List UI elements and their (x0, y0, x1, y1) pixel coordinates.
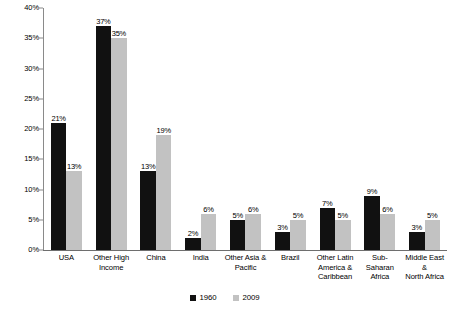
x-axis-labels: USAOther High IncomeChinaIndiaOther Asia… (44, 253, 447, 293)
bar-1960[interactable]: 3% (409, 232, 425, 250)
bar-2009[interactable]: 13% (66, 171, 82, 250)
bar-value-label: 5% (338, 211, 348, 220)
y-axis-tick-mark (39, 129, 43, 130)
bar-2009[interactable]: 6% (380, 214, 396, 250)
bar-1960[interactable]: 13% (140, 171, 156, 250)
y-axis-tick-mark (39, 189, 43, 190)
y-axis-tick-label: 35% (24, 34, 39, 42)
bar-value-label: 7% (322, 199, 332, 208)
bar-group: 2%6% (178, 8, 223, 250)
x-axis-category-label: Middle East & North Africa (396, 253, 449, 282)
bar-value-label: 3% (277, 223, 287, 232)
plot-area: 21%13%37%35%13%19%2%6%5%6%3%5%7%5%9%6%3%… (44, 8, 447, 250)
y-axis-tick-label: 25% (24, 95, 39, 103)
bar-group: 21%13% (44, 8, 89, 250)
bar-1960[interactable]: 7% (320, 208, 336, 250)
bar-value-label: 6% (203, 205, 213, 214)
y-axis-tick-mark (39, 8, 43, 9)
bar-value-label: 9% (367, 187, 377, 196)
bar-2009[interactable]: 5% (425, 220, 441, 250)
x-axis-line (43, 250, 447, 251)
bar-group: 13%19% (134, 8, 179, 250)
bar-2009[interactable]: 35% (111, 38, 127, 250)
bar-group: 37%35% (89, 8, 134, 250)
bar-2009[interactable]: 5% (335, 220, 351, 250)
bar-group: 7%5% (313, 8, 358, 250)
bar-value-label: 5% (427, 211, 437, 220)
bar-2009[interactable]: 5% (290, 220, 306, 250)
legend-item-2009[interactable]: 2009 (233, 293, 260, 302)
y-axis-tick-mark (39, 38, 43, 39)
legend-swatch-icon (233, 295, 239, 301)
y-axis-tick-mark (39, 68, 43, 69)
y-axis-tick-mark (39, 98, 43, 99)
bar-group: 9%6% (357, 8, 402, 250)
bar-1960[interactable]: 37% (96, 26, 112, 250)
legend-item-1960[interactable]: 1960 (190, 293, 217, 302)
bar-1960[interactable]: 9% (364, 196, 380, 250)
bar-2009[interactable]: 6% (245, 214, 261, 250)
bar-group: 5%6% (223, 8, 268, 250)
y-axis-tick-label: 15% (24, 155, 39, 163)
legend-label: 2009 (243, 293, 260, 302)
bar-value-label: 6% (248, 205, 258, 214)
y-axis-tick-mark (39, 250, 43, 251)
chart-legend: 19602009 (0, 293, 449, 302)
bar-value-label: 3% (412, 223, 422, 232)
y-axis-tick-label: 40% (24, 4, 39, 12)
bar-value-label: 21% (51, 114, 65, 123)
bar-value-label: 37% (96, 17, 110, 26)
bar-1960[interactable]: 21% (51, 123, 67, 250)
y-axis-tick-label: 10% (24, 186, 39, 194)
legend-swatch-icon (190, 295, 196, 301)
bar-1960[interactable]: 2% (185, 238, 201, 250)
bar-group: 3%5% (268, 8, 313, 250)
bar-value-label: 5% (293, 211, 303, 220)
bar-value-label: 13% (67, 162, 81, 171)
y-axis-tick-label: 5% (28, 216, 39, 224)
y-axis-tick-label: 20% (24, 125, 39, 133)
bar-value-label: 6% (382, 205, 392, 214)
y-axis-tick-label: 30% (24, 65, 39, 73)
bar-chart: 0%5%10%15%20%25%30%35%40% 21%13%37%35%13… (0, 0, 449, 315)
bar-1960[interactable]: 5% (230, 220, 246, 250)
y-axis-tick-mark (39, 159, 43, 160)
bar-group: 3%5% (402, 8, 447, 250)
bar-value-label: 35% (112, 29, 126, 38)
bar-value-label: 19% (156, 126, 170, 135)
bar-value-label: 13% (141, 162, 155, 171)
y-axis-tick-mark (39, 219, 43, 220)
bar-2009[interactable]: 19% (156, 135, 172, 250)
legend-label: 1960 (200, 293, 217, 302)
bar-1960[interactable]: 3% (275, 232, 291, 250)
bar-value-label: 2% (188, 229, 198, 238)
bar-value-label: 5% (233, 211, 243, 220)
y-axis: 0%5%10%15%20%25%30%35%40% (0, 4, 43, 254)
bar-2009[interactable]: 6% (201, 214, 217, 250)
